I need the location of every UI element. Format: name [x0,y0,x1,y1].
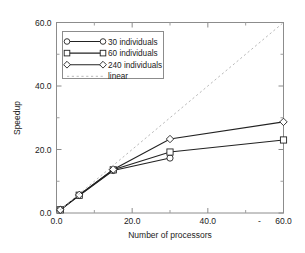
x-axis-tick-label: 0.0 [51,216,63,226]
chart-figure: 0.020.040.060.0 0.020.040.060.0 - Number… [0,0,305,253]
speedup-line-chart: 0.020.040.060.0 0.020.040.060.0 - Number… [0,0,305,253]
legend-item-label: linear [108,72,128,81]
legend-item-label: 30 individuals [108,38,158,47]
data-point-marker-circle [64,39,70,45]
data-point-marker-square [167,149,173,155]
x-axis-tick-label: 60.0 [275,216,292,226]
data-point-marker-circle [100,39,106,45]
legend-item-label: 240 individuals [108,61,162,70]
legend-item-label: 60 individuals [108,49,158,58]
y-axis-tick-label: 0.0 [40,208,52,218]
y-axis-title: Speedup [12,101,22,135]
x-axis-label-artifact: - [258,216,261,226]
chart-legend: 30 individuals60 individuals240 individu… [63,32,164,82]
x-axis-title: Number of processors [128,230,212,240]
y-axis-tick-label: 20.0 [35,145,52,155]
data-point-marker-square [280,137,286,143]
y-axis-tick-label: 60.0 [35,18,52,28]
y-axis-tick-label: 40.0 [35,81,52,91]
data-point-marker-circle [167,155,173,161]
x-axis-tick-label: 40.0 [200,216,217,226]
data-point-marker-square [100,50,106,56]
x-axis-tick-label: 20.0 [124,216,141,226]
data-point-marker-square [64,50,70,56]
